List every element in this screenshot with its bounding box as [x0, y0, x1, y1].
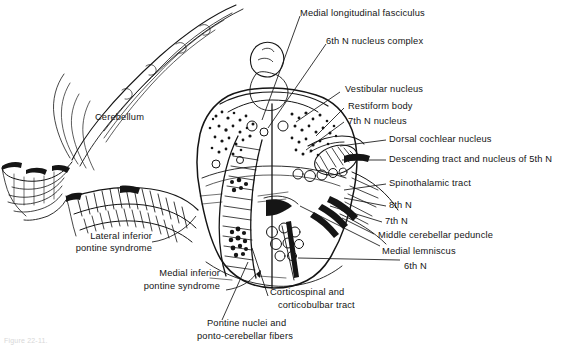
- label-6th-n-lower: 6th N: [404, 261, 427, 272]
- label-descending-tract-and-nucleus-of-5th-n: Descending tract and nucleus of 5th N: [389, 154, 552, 165]
- label-7th-n: 7th N: [385, 216, 408, 227]
- label-medial-inferior-pontine-syndrome-line1: Medial inferior: [108, 268, 220, 279]
- label-spinothalamic-tract: Spinothalamic tract: [389, 178, 471, 189]
- mlf-and-sixth-nucleus-markers: [212, 121, 288, 168]
- figure-page: Medial longitudinal fasciculus 6th N nuc…: [0, 0, 582, 348]
- label-medial-lemniscus: Medial lemniscus: [382, 246, 456, 257]
- label-6th-n-nucleus-complex: 6th N nucleus complex: [326, 36, 423, 47]
- label-restiform-body: Restiform body: [348, 101, 413, 112]
- label-dorsal-cochlear-nucleus: Dorsal cochlear nucleus: [389, 134, 492, 145]
- label-7th-n-nucleus: 7th N nucleus: [348, 116, 407, 127]
- label-corticospinal-and-corticobulbar-tract-line2: corticobulbar tract: [278, 300, 355, 311]
- tegmental-nuclei-stipple: [209, 111, 337, 157]
- label-corticospinal-and-corticobulbar-tract-line1: Corticospinal and: [270, 287, 344, 298]
- label-medial-inferior-pontine-syndrome-line2: pontine syndrome: [98, 281, 220, 292]
- label-lateral-inferior-pontine-syndrome-line1: Lateral inferior: [40, 231, 152, 242]
- label-middle-cerebellar-peduncle: Middle cerebellar peduncle: [378, 230, 493, 241]
- label-8th-n: 8th N: [389, 200, 412, 211]
- label-pontine-nuclei-line2: ponto-cerebellar fibers: [197, 331, 293, 342]
- corticospinal-hatched-columns: [200, 136, 342, 286]
- label-cerebellum: Cerebellum: [95, 112, 144, 123]
- label-medial-longitudinal-fasciculus: Medial longitudinal fasciculus: [300, 8, 425, 19]
- figure-caption: Figure 22-11.: [4, 337, 48, 344]
- label-vestibular-nucleus: Vestibular nucleus: [345, 84, 423, 95]
- label-lateral-inferior-pontine-syndrome-line2: pontine syndrome: [30, 243, 152, 254]
- label-pontine-nuclei-line1: Pontine nuclei and: [207, 318, 286, 329]
